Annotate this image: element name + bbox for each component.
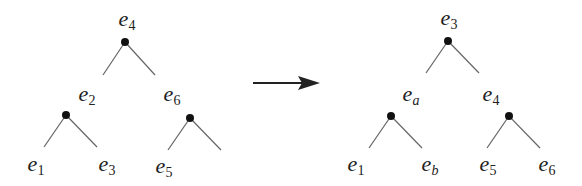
label-right-left: ea <box>403 83 420 108</box>
right-left-node <box>387 112 395 120</box>
label-left-leaf1: e1 <box>28 153 45 178</box>
left-right-node <box>186 114 194 122</box>
left-root-node <box>121 38 129 46</box>
right-root-node <box>444 37 452 45</box>
label-left-right: e6 <box>164 83 181 108</box>
left-left-node <box>62 111 70 119</box>
label-right-right: e4 <box>483 83 500 108</box>
label-left-left: e2 <box>79 83 96 108</box>
label-left-root: e4 <box>119 8 136 33</box>
label-right-leaf2: eb <box>422 153 439 178</box>
label-right-leaf3: e5 <box>480 153 497 178</box>
label-right-root: e3 <box>441 7 458 32</box>
label-left-leaf3: e5 <box>156 155 173 180</box>
label-left-leaf2: e3 <box>99 153 116 178</box>
label-right-leaf4: e6 <box>539 153 556 178</box>
label-right-leaf1: e1 <box>348 153 365 178</box>
right-right-node <box>505 112 513 120</box>
tree-rotation-diagram: e4 e2 e6 e1 e3 e5 e3 ea e4 e1 eb e5 e6 <box>0 0 582 186</box>
arrow-icon <box>253 76 320 90</box>
